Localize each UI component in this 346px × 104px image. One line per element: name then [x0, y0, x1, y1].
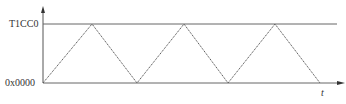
- triangle-waveform: [43, 24, 320, 83]
- x-label-time: t: [321, 88, 324, 98]
- x-axis-arrow-icon: [337, 81, 345, 85]
- y-label-zero: 0x0000: [5, 78, 35, 88]
- y-axis-arrow-icon: [41, 6, 45, 13]
- waveform-canvas: [0, 0, 346, 104]
- y-label-t1cc0: T1CC0: [9, 19, 38, 29]
- timer-waveform-diagram: T1CC0 0x0000 t: [0, 0, 346, 104]
